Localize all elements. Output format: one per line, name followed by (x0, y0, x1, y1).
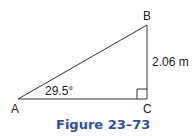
triangle (18, 25, 147, 99)
vertex-label-a: A (11, 102, 19, 116)
side-ab (18, 25, 147, 99)
side-bc-label: 2.06 m (152, 55, 189, 69)
vertex-label-c: C (143, 102, 152, 116)
angle-a-label: 29.5° (45, 84, 73, 98)
figure-caption: Figure 23–73 (56, 117, 150, 132)
vertex-label-b: B (143, 9, 151, 23)
triangle-diagram: B 2.06 m 29.5° A C Figure 23–73 (0, 0, 193, 136)
right-angle-marker (137, 89, 147, 99)
